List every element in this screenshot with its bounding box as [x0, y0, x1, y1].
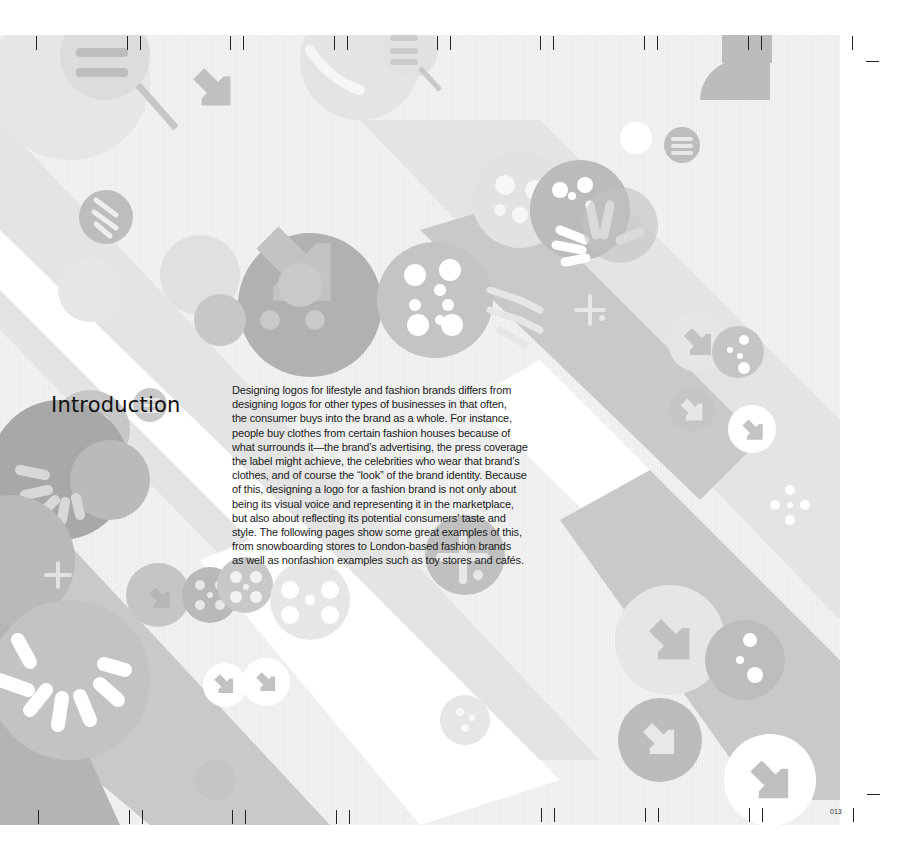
body-line: style. The following pages show some gre… — [232, 525, 572, 539]
body-line: from snowboarding stores to London-based… — [232, 539, 572, 553]
body-line: what surrounds it—the brand’s advertisin… — [232, 440, 572, 454]
page-heading: Introduction — [51, 393, 181, 417]
page-number: 013 — [830, 808, 842, 815]
body-line: being its visual voice and representing … — [232, 497, 572, 511]
body-line: as well as nonfashion examples such as t… — [232, 553, 572, 567]
body-line: people buy clothes from certain fashion … — [232, 426, 572, 440]
book-page: Introduction Designing logos for lifesty… — [0, 35, 840, 825]
body-line: designing logos for other types of busin… — [232, 397, 572, 411]
body-line: but also about reflecting its potential … — [232, 511, 572, 525]
body-line: the consumer buys into the brand as a wh… — [232, 411, 572, 425]
body-line: clothes, and of course the “look” of the… — [232, 468, 572, 482]
body-line: Designing logos for lifestyle and fashio… — [232, 383, 572, 397]
body-paragraph: Designing logos for lifestyle and fashio… — [232, 383, 572, 568]
body-line: the label might achieve, the celebrities… — [232, 454, 572, 468]
body-line: of this, designing a logo for a fashion … — [232, 482, 572, 496]
